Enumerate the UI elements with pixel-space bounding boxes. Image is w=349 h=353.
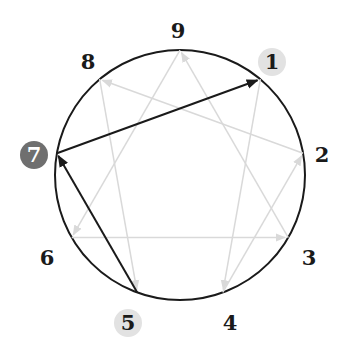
point-label-6: 6 [40,245,55,270]
point-label-4: 4 [223,310,238,335]
point-label-2: 2 [315,142,330,167]
enneagram-diagram: 912345678 [0,0,349,353]
enneagram-circle [55,50,305,300]
point-labels: 912345678 [20,18,329,337]
active-arrows [57,80,258,292]
point-label-3: 3 [302,245,317,270]
arrow-3-to-9 [182,53,289,238]
point-label-1: 1 [265,49,280,74]
point-label-9: 9 [171,18,186,43]
point-label-7: 7 [27,142,42,167]
point-label-5: 5 [121,310,136,335]
point-label-8: 8 [81,49,96,74]
